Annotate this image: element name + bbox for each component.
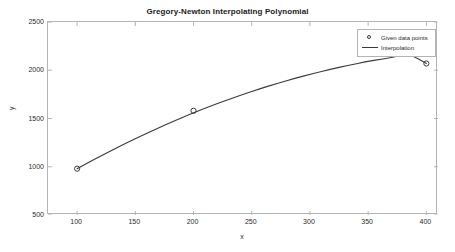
interpolation-curve	[77, 55, 426, 169]
x-tick-label: 100	[70, 218, 82, 225]
x-axis-label: x	[47, 233, 437, 240]
legend-item-given-data-points: Given data points	[361, 33, 432, 42]
chart-legend: Given data points Interpolation	[357, 29, 436, 57]
line-marker-icon	[361, 43, 379, 52]
chart-title: Gregory-Newton Interpolating Polynomial	[0, 7, 455, 16]
y-tick-label: 1500	[28, 114, 44, 121]
y-tick-label: 2500	[28, 18, 44, 25]
x-tick-label: 250	[245, 218, 257, 225]
x-tick-label: 400	[420, 218, 432, 225]
x-tick-label: 300	[303, 218, 315, 225]
figure-canvas: Gregory-Newton Interpolating Polynomial …	[0, 0, 455, 252]
y-tick-label: 500	[32, 211, 44, 218]
legend-label: Given data points	[379, 35, 428, 41]
x-axis-tick-labels: 100150200250300350400	[47, 218, 437, 230]
y-axis-tick-labels: 5001000150020002500	[20, 21, 44, 214]
x-tick-label: 350	[361, 218, 373, 225]
x-tick-label: 150	[128, 218, 140, 225]
x-tick-label: 200	[187, 218, 199, 225]
data-point-markers	[75, 61, 429, 171]
legend-item-interpolation: Interpolation	[361, 43, 432, 52]
y-tick-label: 2000	[28, 66, 44, 73]
legend-label: Interpolation	[379, 45, 414, 51]
y-tick-label: 1000	[28, 162, 44, 169]
y-axis-label: y	[8, 107, 15, 111]
circle-marker-icon	[361, 33, 379, 42]
